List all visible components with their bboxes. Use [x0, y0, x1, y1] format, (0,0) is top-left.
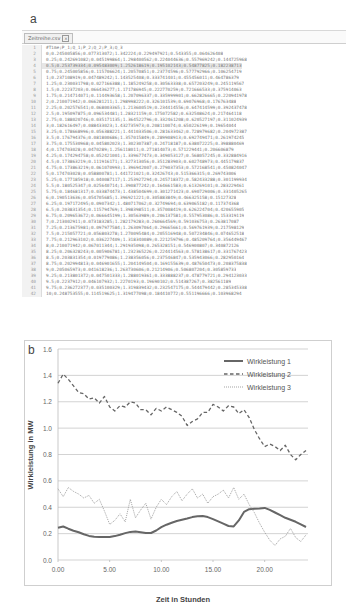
y-tick-label: 1.2	[43, 398, 52, 405]
y-tick-label: 1.0	[43, 425, 52, 432]
chart-series	[58, 374, 306, 545]
y-tick-label: 0.4	[43, 504, 52, 511]
chart-legend: Wirkleistung 1Wirkleistung 2Wirkleistung…	[224, 358, 291, 392]
chart-gridlines	[58, 349, 308, 562]
y-tick-label: 0.0	[43, 557, 52, 564]
x-tick-label: 20.00	[257, 566, 274, 573]
y-tick-label: 0.8	[43, 451, 52, 458]
x-tick-label: 15.00	[205, 566, 222, 573]
legend-label-3: Wirkleistung 3	[247, 384, 291, 392]
legend-label-2: Wirkleistung 2	[247, 371, 291, 379]
y-tick-label: 0.6	[43, 477, 52, 484]
legend-label-1: Wirkleistung 1	[247, 358, 291, 366]
y-tick-label: 0.2	[43, 530, 52, 537]
x-tick-label: 5.00	[103, 566, 116, 573]
y-axis-ticks: 0.00.20.40.60.81.01.21.41.6	[43, 346, 52, 564]
x-axis-label: Zeit in Stunden	[156, 595, 211, 604]
x-axis-ticks: 0.005.0010.0015.0020.00	[52, 566, 274, 573]
y-tick-label: 1.4	[43, 372, 52, 379]
x-tick-label: 0.00	[52, 566, 65, 573]
y-tick-label: 1.6	[43, 346, 52, 353]
series-line-1	[58, 508, 306, 537]
y-axis-label: Wirkleistung in MW	[26, 420, 35, 490]
line-chart: 0.00.20.40.60.81.01.21.41.6 0.005.0010.0…	[0, 0, 348, 614]
x-tick-label: 10.00	[153, 566, 170, 573]
